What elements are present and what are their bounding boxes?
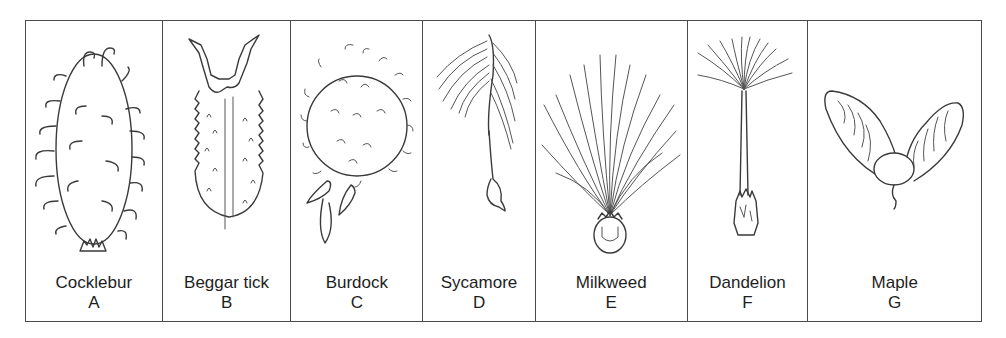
- panel-burdock: Burdock C: [291, 21, 423, 321]
- seed-letter: C: [291, 293, 422, 313]
- seed-letter: A: [26, 293, 162, 313]
- seed-letter: F: [688, 293, 808, 313]
- panel-sycamore: Sycamore D: [423, 21, 536, 321]
- panel-maple: Maple G: [808, 21, 981, 321]
- seed-name: Cocklebur: [56, 273, 133, 292]
- seed-name: Dandelion: [709, 273, 786, 292]
- seed-letter: B: [163, 293, 291, 313]
- seed-name: Burdock: [326, 273, 388, 292]
- dandelion-seed-icon: [688, 21, 809, 271]
- burdock-seed-icon: [291, 21, 423, 271]
- beggar-tick-seed-icon: [163, 21, 292, 271]
- seed-table: Cocklebur A Beggar tick B: [25, 20, 982, 322]
- panel-beggar-tick: Beggar tick B: [163, 21, 292, 321]
- sycamore-seed-icon: [423, 21, 536, 271]
- cocklebur-seed-icon: [26, 21, 163, 271]
- seed-letter: D: [423, 293, 535, 313]
- seed-name: Beggar tick: [184, 273, 269, 292]
- milkweed-seed-icon: [536, 21, 688, 271]
- seed-letter: E: [536, 293, 687, 313]
- panel-cocklebur: Cocklebur A: [26, 21, 163, 321]
- seed-name: Sycamore: [441, 273, 518, 292]
- maple-seed-icon: [808, 21, 981, 271]
- seed-letter: G: [808, 293, 981, 313]
- panel-dandelion: Dandelion F: [688, 21, 809, 321]
- seed-name: Milkweed: [576, 273, 647, 292]
- panel-milkweed: Milkweed E: [536, 21, 688, 321]
- seed-name: Maple: [872, 273, 918, 292]
